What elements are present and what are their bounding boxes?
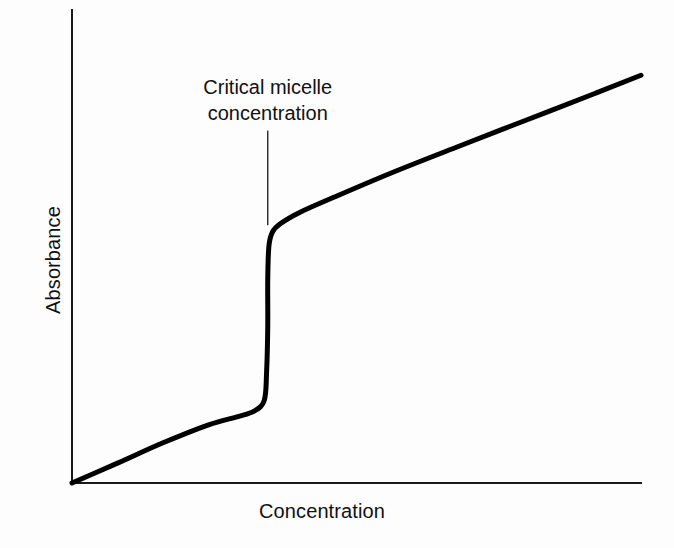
figure-container: Absorbance Concentration Critical micell… — [0, 0, 674, 548]
x-axis-title: Concentration — [72, 500, 572, 523]
y-axis-title: Absorbance — [42, 130, 65, 390]
cmc-annotation-label: Critical micelle concentration — [118, 74, 418, 126]
absorbance-curve — [72, 75, 641, 483]
